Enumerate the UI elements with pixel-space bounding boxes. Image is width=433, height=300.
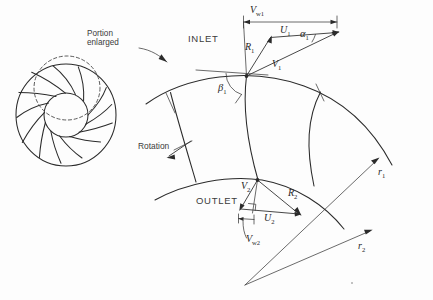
diagram-canvas	[0, 0, 433, 300]
impeller-vanes	[17, 66, 113, 163]
beta1-angle-arc	[226, 74, 242, 95]
vw1-right-arrowhead	[331, 20, 338, 24]
v2-label: V2	[241, 181, 250, 193]
vane	[86, 105, 112, 125]
v2-vector-arrowhead	[239, 203, 244, 211]
vane	[39, 123, 45, 158]
enlarged-blade-passage	[146, 76, 392, 285]
outlet-point-marker	[256, 178, 260, 182]
v1-label: V1	[272, 59, 281, 71]
vane	[78, 67, 83, 101]
r2-radius-label: r2	[358, 241, 365, 253]
callout-arrowhead	[159, 54, 167, 62]
vw2-left-arrowhead	[239, 217, 244, 221]
alpha1-label: α1	[300, 28, 309, 41]
vane	[22, 112, 44, 142]
impeller-velocity-triangle-figure: Portion enlarged INLET OUTLET Rotation V…	[0, 0, 433, 300]
blade-curve-middle	[245, 76, 258, 180]
r2-vector-label: R2	[288, 188, 297, 200]
beta1-label: β1	[218, 82, 227, 95]
rotation-label: Rotation	[138, 142, 169, 151]
alpha1-subscript: 1	[306, 34, 309, 41]
stray-ink-mark	[351, 282, 353, 284]
vane	[53, 66, 75, 95]
r1-radius-subscript: 1	[382, 172, 385, 179]
r2-leader	[245, 231, 370, 285]
blade-curve-left	[171, 93, 197, 183]
inlet-point-marker	[245, 74, 249, 78]
portion-enlarged-note-line1: Portion	[87, 29, 113, 38]
u2-label: U2	[264, 213, 275, 225]
vane	[19, 92, 56, 96]
beta1-subscript: 1	[223, 88, 226, 95]
vw1-label: Vw1	[250, 5, 264, 17]
v1-vector-arrowhead	[332, 31, 340, 36]
alpha1-angle-arc	[312, 35, 316, 43]
vw2-subscript: w2	[252, 239, 260, 246]
r2-vector-subscript: 2	[294, 193, 297, 200]
impeller-hub-circle	[44, 93, 88, 137]
outer-arc-inlet	[146, 76, 392, 165]
v2-subscript: 2	[247, 186, 250, 193]
r1-vector-label: R1	[245, 42, 254, 54]
r2-radius-subscript: 2	[362, 246, 365, 253]
r1-vector-subscript: 1	[251, 47, 254, 54]
u2-subscript: 2	[271, 218, 274, 225]
portion-enlarged-arrow	[139, 48, 167, 62]
impeller-wheel	[16, 56, 116, 166]
portion-enlarged-note: Portion enlarged	[87, 29, 119, 47]
r1-radius-label: r1	[378, 167, 385, 179]
vw1-subscript: w1	[256, 10, 264, 17]
vw1-left-arrowhead	[244, 20, 251, 24]
vw2-label: Vw2	[246, 234, 260, 246]
vane	[32, 72, 66, 93]
r1-arrowhead	[371, 158, 380, 165]
inlet-label: INLET	[188, 34, 218, 44]
beta1-tail	[236, 95, 242, 104]
radius-r2-line	[245, 230, 373, 285]
portion-enlarged-note-line2: enlarged	[87, 38, 119, 47]
v1-subscript: 1	[278, 64, 281, 71]
blade-curve-right	[309, 92, 321, 186]
vane	[70, 137, 101, 142]
r2-arrowhead	[364, 230, 373, 235]
u1-label: U1	[280, 25, 291, 37]
portion-enlarged-highlight-circle	[34, 56, 100, 120]
u1-subscript: 1	[287, 30, 290, 37]
outlet-label: OUTLET	[196, 196, 238, 206]
